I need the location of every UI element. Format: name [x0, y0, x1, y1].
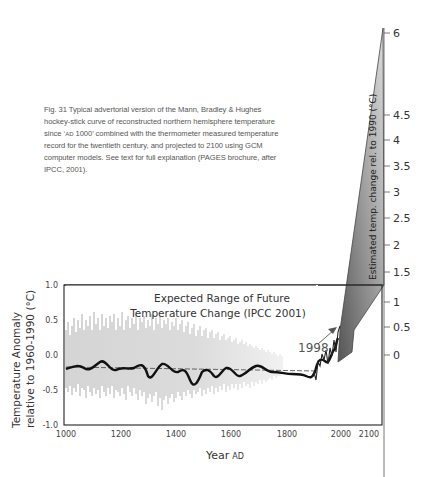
x-tick-label: 1200 — [111, 430, 131, 439]
right-tick-label: 0.5 — [393, 321, 411, 334]
range-annotation-line1: Expected Range of Future — [154, 292, 290, 304]
right-tick-label: 2 — [393, 239, 400, 252]
left-tick-label: -1.0 — [42, 421, 58, 430]
x-tick-label: 1800 — [277, 430, 297, 439]
right-tick-label: 2.5 — [393, 212, 411, 225]
right-tick-label: 1.5 — [393, 266, 411, 279]
right-tick-label: 0 — [393, 349, 400, 362]
label-1998: 1998 — [298, 341, 329, 355]
right-tick-label: 1 — [393, 296, 400, 309]
right-axis-labels: 6 4.5 4 3.5 3 2.5 2 1.5 1 0.5 0 — [393, 27, 411, 362]
right-tick-label: 4 — [393, 134, 400, 147]
uncertainty-band — [66, 312, 282, 410]
right-axis-ticks — [384, 33, 390, 355]
x-tick-label: 2000 — [331, 430, 351, 439]
right-tick-label: 6 — [393, 27, 400, 40]
right-axis-title: Estimated temp. change rel. to 1990 (°C) — [368, 94, 378, 280]
x-tick-label: 1000 — [56, 430, 76, 439]
right-tick-label: 4.5 — [393, 109, 411, 122]
x-tick-label: 2100 — [359, 430, 379, 439]
range-annotation-line2: Temperature Change (IPCC 2001) — [129, 307, 306, 319]
left-axis-title-line2: relative to 1960-1990 (°C) — [24, 290, 36, 428]
arrow-head-icon — [328, 327, 337, 334]
left-axis-labels: 1.0 0.5 0.0 -0.5 -1.0 — [42, 281, 58, 430]
x-axis-labels: 1000 1200 1400 1600 1800 2000 2100 — [56, 430, 379, 439]
left-tick-label: 0.0 — [45, 351, 58, 360]
right-tick-label: 3 — [393, 186, 400, 199]
x-tick-label: 1400 — [166, 430, 186, 439]
left-tick-label: -0.5 — [42, 386, 58, 395]
left-tick-label: 0.5 — [45, 316, 58, 325]
x-tick-label: 1600 — [221, 430, 241, 439]
right-tick-label: 3.5 — [393, 160, 411, 173]
x-axis-title-main: Year — [205, 449, 230, 462]
hockey-stick-chart: 1998 Expected Range of Future Temperatur… — [0, 0, 426, 477]
x-axis-title: YearAD — [205, 449, 244, 462]
left-axis-title-line1: Temperature Anomaly — [10, 312, 22, 429]
x-axis-title-sc: AD — [232, 452, 244, 461]
left-tick-label: 1.0 — [45, 281, 58, 290]
